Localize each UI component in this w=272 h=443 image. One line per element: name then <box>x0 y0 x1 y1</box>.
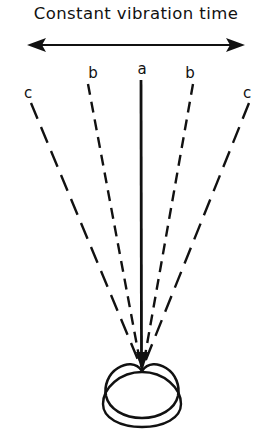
figure-canvas: Constant vibration time c b a b c <box>0 0 272 443</box>
curve-label-b-left: b <box>85 66 101 81</box>
curve-label-a: a <box>134 62 150 77</box>
ray-group <box>31 80 249 367</box>
ray-b-left <box>88 84 141 367</box>
ray-b-right <box>143 84 193 367</box>
double-headed-horizontal-arrow <box>27 38 245 52</box>
ray-c-left <box>31 103 141 367</box>
curve-label-c-right: c <box>239 86 255 101</box>
ray-c-right <box>143 103 249 367</box>
specimen-inner-outline <box>106 364 179 418</box>
curve-label-b-right: b <box>182 66 198 81</box>
ray-a <box>141 80 142 367</box>
curve-label-c-left: c <box>20 86 36 101</box>
